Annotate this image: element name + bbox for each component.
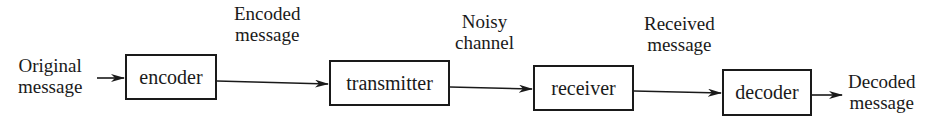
block-decoder: decoder <box>722 69 812 116</box>
block-transmitter: transmitter <box>329 60 450 106</box>
arrow-receiver-to-decoder <box>634 91 721 93</box>
block-encoder: encoder <box>125 54 217 100</box>
label-original-message: Original message <box>18 55 82 97</box>
label-received-message: Received message <box>644 13 715 55</box>
arrow-transmitter-to-receiver <box>450 87 532 89</box>
label-decoded-message: Decoded message <box>848 71 916 113</box>
label-encoded-message: Encoded message <box>234 3 300 45</box>
block-receiver: receiver <box>533 65 634 111</box>
arrow-encoder-to-transmitter <box>217 81 328 84</box>
label-noisy-channel: Noisy channel <box>455 11 514 53</box>
